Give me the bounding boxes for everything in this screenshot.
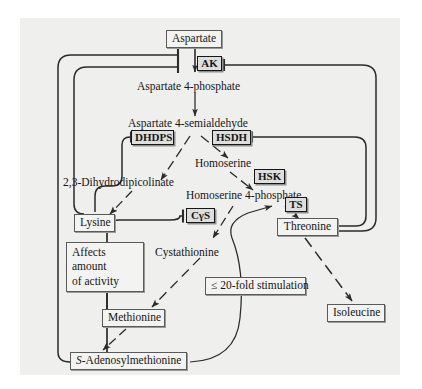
node-enzyme-hsk[interactable]: HSK (254, 169, 285, 184)
affects-amount-line-1: Affects amount (72, 245, 138, 274)
sam-rest: -Adenosylmethionine (82, 354, 182, 366)
node-homoserine: Homoserine (195, 157, 251, 169)
node-affects-amount-of-activity[interactable]: Affects amount of activity (66, 242, 144, 292)
inhibition-lysine-to-dhdps (95, 137, 131, 212)
node-threonine-label: Threonine (284, 220, 331, 232)
node-enzyme-cgs[interactable]: CγS (186, 208, 215, 223)
node-homoserine-4-phosphate: Homoserine 4-phosphate (186, 189, 301, 201)
arrow-threonine-to-isoleucine (305, 238, 352, 301)
node-enzyme-dhdps[interactable]: DHDPS (131, 130, 174, 145)
node-enzyme-hsdh[interactable]: HSDH (212, 130, 251, 145)
stimulation-label-text: ≤ 20-fold stimulation (211, 279, 309, 291)
affects-amount-line-2: of activity (72, 274, 138, 288)
node-dihydrodipicolinate: 2,3-Dihydrodipicolinate (63, 176, 174, 188)
node-methionine[interactable]: Methionine (102, 309, 165, 327)
node-aspartate-4-semialdehyde: Aspartate 4-semialdehyde (128, 117, 248, 129)
node-cystathionine: Cystathionine (155, 246, 219, 258)
arrow-dhdp-to-lysine (110, 191, 132, 214)
node-enzyme-ak[interactable]: AK (197, 56, 222, 71)
node-aspartate[interactable]: Aspartate (166, 30, 222, 48)
node-enzyme-hsk-label: HSK (258, 170, 281, 182)
arrow-homoserine-to-hs4p (230, 172, 253, 190)
node-methionine-label: Methionine (108, 311, 161, 323)
arrow-cystathionine-to-methionine (152, 258, 200, 307)
node-enzyme-ts-label: TS (289, 198, 302, 210)
node-enzyme-ts[interactable]: TS (285, 197, 307, 212)
node-threonine[interactable]: Threonine (277, 218, 338, 236)
node-s-adenosylmethionine[interactable]: S-Adenosylmethionine (70, 352, 187, 370)
arrow-hs4p-to-cystathionine (213, 206, 233, 238)
node-lysine-label: Lysine (80, 216, 111, 228)
node-aspartate-label: Aspartate (172, 32, 216, 44)
node-lysine[interactable]: Lysine (74, 214, 115, 232)
node-enzyme-hsdh-label: HSDH (216, 131, 247, 143)
node-enzyme-dhdps-label: DHDPS (135, 131, 172, 143)
node-enzyme-ak-label: AK (201, 57, 218, 69)
node-aspartate-4-phosphate: Aspartate 4-phosphate (137, 80, 240, 92)
node-stimulation-label[interactable]: ≤ 20-fold stimulation (205, 277, 306, 295)
node-isoleucine[interactable]: Isoleucine (327, 304, 385, 322)
node-isoleucine-label: Isoleucine (333, 306, 380, 318)
pathway-diagram-canvas: Aspartate AK Aspartate 4-phosphate Aspar… (0, 0, 422, 389)
node-enzyme-cgs-label: CγS (191, 209, 210, 221)
